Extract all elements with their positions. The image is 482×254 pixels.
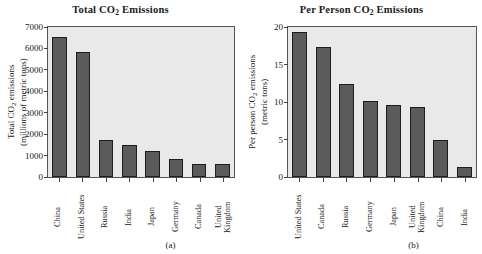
chart-title-a-prefix: Total CO — [72, 4, 115, 15]
bar-slot — [359, 27, 383, 177]
y-axis-label-b-part3: (metric tons) — [259, 79, 269, 125]
bar — [52, 37, 66, 177]
chart-title-a: Total CO2 Emissions — [0, 4, 241, 15]
y-axis-label-a-subscript: 2 — [10, 103, 18, 107]
bar — [457, 167, 472, 178]
panel-total-emissions: Total CO2 Emissions Total CO2 emissions … — [0, 0, 241, 254]
y-axis-tick-label: 5000 — [25, 65, 48, 74]
y-axis-tick-label: 10 — [274, 98, 288, 107]
bar — [169, 159, 183, 177]
bar — [145, 151, 159, 177]
bar — [339, 84, 354, 177]
chart-title-b-subscript: 2 — [370, 8, 374, 17]
chart-title-a-suffix: Emissions — [119, 4, 169, 15]
bar-slot — [95, 27, 118, 177]
y-axis-label-a-part1: Total CO — [6, 106, 16, 139]
y-axis-tick-label: 1000 — [25, 151, 48, 160]
chart-title-b: Per Person CO2 Emissions — [241, 4, 482, 15]
y-axis-tick-label: 6000 — [25, 44, 48, 53]
y-axis-label-b-subscript: 2 — [251, 93, 259, 97]
y-axis-label-b-part1: Per person CO — [247, 96, 257, 149]
plot-area-a: 01000200030004000500060007000 — [47, 26, 235, 178]
bar-slot — [48, 27, 71, 177]
y-axis-tick-label: 15 — [274, 60, 288, 69]
bar-slot — [71, 27, 94, 177]
y-axis-label-a: Total CO2 emissions (millions of metric … — [6, 38, 28, 166]
panel-caption-b: (b) — [241, 240, 482, 250]
bar — [433, 140, 448, 178]
bar — [292, 32, 307, 177]
bar-slot — [335, 27, 359, 177]
bar-slot — [406, 27, 430, 177]
bar-slot — [382, 27, 406, 177]
bar-slot — [453, 27, 477, 177]
y-axis-tick-label: 5 — [279, 135, 289, 144]
y-axis-tick-label: 7000 — [25, 23, 48, 32]
y-axis-tick-label: 4000 — [25, 87, 48, 96]
bar — [215, 164, 229, 177]
y-axis-tick-label: 2000 — [25, 130, 48, 139]
y-axis-label-b: Per person CO2 emissions (metric tons) — [247, 40, 269, 164]
bar — [122, 145, 136, 177]
panel-per-person-emissions: Per Person CO2 Emissions Per person CO2 … — [241, 0, 482, 254]
y-axis-tick-label: 20 — [274, 23, 288, 32]
bar-slot — [164, 27, 187, 177]
bar-slot — [141, 27, 164, 177]
bar-series-b — [288, 27, 476, 177]
y-axis-label-a-part2: emissions — [6, 65, 16, 103]
chart-title-b-suffix: Emissions — [374, 4, 424, 15]
bar-slot — [312, 27, 336, 177]
bar — [386, 105, 401, 177]
chart-title-b-prefix: Per Person CO — [300, 4, 370, 15]
y-axis-tick-label: 3000 — [25, 108, 48, 117]
bar — [99, 140, 113, 178]
bar — [410, 107, 425, 178]
bar-slot — [211, 27, 234, 177]
bar-slot — [288, 27, 312, 177]
plot-area-b: 05101520 — [287, 26, 477, 178]
bar — [76, 52, 90, 177]
bar — [192, 164, 206, 177]
bar-slot — [188, 27, 211, 177]
bar-slot — [429, 27, 453, 177]
y-axis-label-b-part2: emissions — [247, 55, 257, 93]
bar — [316, 47, 331, 178]
bar-slot — [118, 27, 141, 177]
figure-two-bar-charts: Total CO2 Emissions Total CO2 emissions … — [0, 0, 482, 254]
bar — [363, 101, 378, 177]
bar-series-a — [48, 27, 234, 177]
chart-title-a-subscript: 2 — [115, 8, 119, 17]
